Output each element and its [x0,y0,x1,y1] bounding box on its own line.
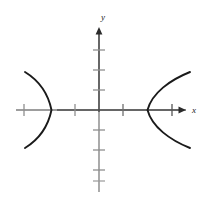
x-axis-label: x [191,105,196,115]
figure-container: y x [0,0,206,205]
coordinate-plane-graph: y x [0,0,206,205]
x-axis [16,104,186,116]
y-axis-arrowhead-icon [96,27,103,35]
x-axis-arrowhead-icon [179,107,187,114]
y-axis-label: y [100,12,105,22]
